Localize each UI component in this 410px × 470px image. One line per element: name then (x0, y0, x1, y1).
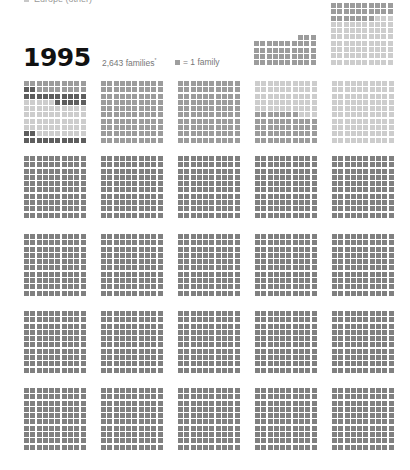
family-square (285, 35, 290, 40)
family-square (197, 240, 202, 245)
family-square (351, 413, 356, 418)
family-square (362, 16, 367, 21)
family-square (351, 426, 356, 431)
family-square (101, 169, 106, 174)
family-square (338, 112, 343, 117)
family-square (280, 342, 285, 347)
family-square (338, 162, 343, 167)
family-square (120, 162, 125, 167)
family-square (345, 175, 350, 180)
family-square (286, 265, 291, 270)
family-square (107, 253, 112, 258)
family-square (43, 272, 48, 277)
family-square (81, 445, 86, 450)
family-square (68, 240, 73, 245)
family-square (312, 125, 317, 130)
family-square (37, 272, 42, 277)
family-square (363, 125, 368, 130)
waffle-grid-r1c3 (178, 81, 240, 143)
family-square (120, 349, 125, 354)
family-square (145, 175, 150, 180)
family-square (203, 259, 208, 264)
family-square (107, 175, 112, 180)
family-square (357, 106, 362, 111)
family-square (132, 368, 137, 373)
family-square (357, 413, 362, 418)
family-square (178, 181, 183, 186)
family-square (274, 438, 279, 443)
family-square (370, 419, 375, 424)
family-square (222, 169, 227, 174)
family-square (43, 100, 48, 105)
family-square (203, 401, 208, 406)
family-square (74, 413, 79, 418)
family-square (312, 194, 317, 199)
family-square (286, 119, 291, 124)
family-square (37, 162, 42, 167)
family-square (228, 445, 233, 450)
family-square (286, 94, 291, 99)
family-square (151, 265, 156, 270)
family-square (273, 54, 278, 59)
family-square (107, 206, 112, 211)
family-square (388, 9, 393, 14)
family-square (363, 336, 368, 341)
family-square (305, 317, 310, 322)
family-square (293, 278, 298, 283)
family-square (363, 401, 368, 406)
family-square (389, 324, 394, 329)
family-square (350, 41, 355, 46)
family-square (312, 131, 317, 136)
family-square (126, 284, 131, 289)
family-square (286, 438, 291, 443)
family-square (376, 432, 381, 437)
family-square (338, 419, 343, 424)
family-square (261, 355, 266, 360)
family-square (132, 394, 137, 399)
families-label: 2,643 families (102, 58, 154, 68)
family-square (261, 169, 266, 174)
family-square (305, 324, 310, 329)
family-square (101, 181, 106, 186)
family-square (235, 259, 240, 264)
family-square (107, 368, 112, 373)
family-square (81, 187, 86, 192)
family-square (120, 81, 125, 86)
family-square (312, 247, 317, 252)
family-square (191, 119, 196, 124)
family-square (363, 119, 368, 124)
family-square (209, 388, 214, 393)
family-square (145, 355, 150, 360)
family-square (55, 259, 60, 264)
waffle-grid-r4c3 (178, 311, 240, 373)
family-square (24, 349, 29, 354)
family-square (132, 355, 137, 360)
family-square (375, 22, 380, 27)
family-square (228, 206, 233, 211)
family-square (158, 100, 163, 105)
family-square (132, 349, 137, 354)
family-square (222, 336, 227, 341)
family-square (209, 125, 214, 130)
family-square (293, 426, 298, 431)
family-square (280, 234, 285, 239)
family-square (268, 162, 273, 167)
family-square (298, 54, 303, 59)
family-square (49, 324, 54, 329)
family-square (255, 206, 260, 211)
family-square (126, 426, 131, 431)
family-square (203, 100, 208, 105)
family-square (209, 162, 214, 167)
family-square (209, 336, 214, 341)
family-square (178, 349, 183, 354)
family-square (74, 175, 79, 180)
family-square (293, 265, 298, 270)
family-square (268, 361, 273, 366)
family-square (145, 112, 150, 117)
family-square (43, 240, 48, 245)
family-square (139, 259, 144, 264)
family-square (139, 445, 144, 450)
family-square (139, 311, 144, 316)
family-square (370, 119, 375, 124)
family-square (62, 394, 67, 399)
